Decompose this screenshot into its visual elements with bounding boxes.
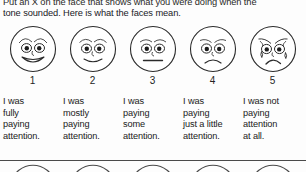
- caption-3-line-1: I was: [123, 96, 181, 108]
- scale-number-3: 3: [122, 74, 183, 87]
- face-top-icon: [188, 163, 238, 172]
- happy-face-icon[interactable]: [68, 24, 118, 74]
- survey-sheet: Put an X on the face that shows what you…: [0, 0, 306, 172]
- caption-4-line-3: just a little: [183, 119, 245, 131]
- scale-number-5: 5: [242, 74, 303, 87]
- captions-row: I was fully paying attention. I was most…: [0, 96, 306, 154]
- scale-number-2: 2: [62, 74, 123, 87]
- tear-left-icon: [260, 52, 262, 58]
- caption-5-line-4: at all.: [243, 131, 305, 143]
- face-option-4[interactable]: [182, 24, 243, 74]
- caption-2: I was mostly paying attention.: [63, 96, 121, 142]
- caption-3-line-2: paying: [123, 108, 181, 120]
- caption-5-line-1: I was not: [243, 96, 305, 108]
- caption-3: I was paying some attention.: [123, 96, 181, 142]
- very-happy-face-icon[interactable]: [8, 24, 58, 74]
- next-question-faces-clipped: [0, 163, 306, 172]
- caption-2-line-4: attention.: [63, 131, 121, 143]
- face-option-5[interactable]: [242, 24, 303, 74]
- face-top-icon: [128, 163, 178, 172]
- caption-5-line-2: paying: [243, 108, 305, 120]
- next-face-5[interactable]: [242, 163, 303, 172]
- caption-2-line-3: paying: [63, 119, 121, 131]
- caption-5: I was not paying attention at all.: [243, 96, 305, 142]
- scale-numbers-row: 1 2 3 4 5: [0, 74, 306, 88]
- caption-2-line-1: I was: [63, 96, 121, 108]
- caption-1-line-3: paying: [3, 119, 61, 131]
- caption-1-line-1: I was: [3, 96, 61, 108]
- face-option-1[interactable]: [2, 24, 63, 74]
- caption-3-line-4: attention.: [123, 131, 181, 143]
- caption-5-line-3: attention: [243, 119, 305, 131]
- scale-number-1: 1: [2, 74, 63, 87]
- face-option-3[interactable]: [122, 24, 183, 74]
- next-face-3[interactable]: [122, 163, 183, 172]
- sad-face-icon[interactable]: [188, 24, 238, 74]
- caption-4-line-1: I was: [183, 96, 245, 108]
- face-option-2[interactable]: [62, 24, 123, 74]
- instruction-line-1: Put an X on the face that shows what you…: [3, 0, 303, 8]
- face-top-icon: [248, 163, 298, 172]
- face-top-icon: [68, 163, 118, 172]
- next-face-4[interactable]: [182, 163, 243, 172]
- caption-1: I was fully paying attention.: [3, 96, 61, 142]
- scale-number-4: 4: [182, 74, 243, 87]
- tear-right-icon: [284, 53, 286, 59]
- caption-2-line-2: mostly: [63, 108, 121, 120]
- section-divider: [0, 160, 306, 161]
- instruction-text: Put an X on the face that shows what you…: [3, 0, 303, 20]
- instruction-line-2: tone sounded. Here is what the faces mea…: [3, 8, 303, 19]
- next-face-2[interactable]: [62, 163, 123, 172]
- caption-4: I was paying just a little attention.: [183, 96, 245, 142]
- caption-4-line-2: paying: [183, 108, 245, 120]
- faces-row: [0, 24, 306, 74]
- caption-4-line-4: attention.: [183, 131, 245, 143]
- caption-1-line-4: attention.: [3, 131, 61, 143]
- next-face-1[interactable]: [2, 163, 63, 172]
- neutral-face-icon[interactable]: [128, 24, 178, 74]
- face-top-icon: [8, 163, 58, 172]
- caption-1-line-2: fully: [3, 108, 61, 120]
- crying-face-icon[interactable]: [248, 24, 298, 74]
- caption-3-line-3: some: [123, 119, 181, 131]
